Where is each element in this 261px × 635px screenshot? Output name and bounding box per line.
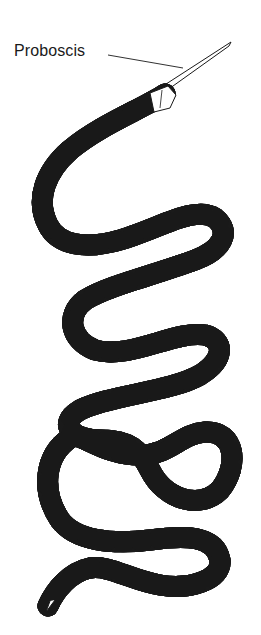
proboscis — [161, 42, 231, 92]
worm-body — [42, 94, 232, 606]
worm-diagram: Proboscis — [0, 0, 261, 635]
proboscis-label: Proboscis — [14, 42, 85, 60]
label-leader-line — [108, 55, 183, 68]
worm-illustration — [0, 0, 261, 635]
